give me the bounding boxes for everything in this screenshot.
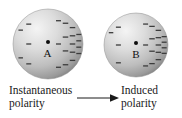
sphere-a-graphic	[12, 8, 84, 80]
caption-right-line1: Induced	[121, 84, 158, 97]
caption-right-line2: polarity	[121, 97, 158, 110]
sphere-b-center-dot	[134, 41, 138, 45]
caption-left-line1: Instantaneous	[9, 84, 72, 97]
sphere-b-graphic	[103, 12, 169, 78]
sphere-a-label: A	[41, 48, 55, 59]
sphere-b-label: B	[129, 49, 143, 60]
sphere-b-group: B	[103, 12, 169, 78]
rightward-arrow-icon	[77, 91, 120, 105]
caption-left-line2: polarity	[9, 97, 72, 110]
induced-polarity-caption: Induced polarity	[121, 84, 158, 110]
sphere-a-group: A	[12, 8, 84, 80]
sphere-a-center-dot	[46, 40, 50, 44]
instantaneous-polarity-caption: Instantaneous polarity	[9, 84, 72, 110]
polarization-figure: A B Instantaneous polarity Induced	[0, 0, 182, 118]
